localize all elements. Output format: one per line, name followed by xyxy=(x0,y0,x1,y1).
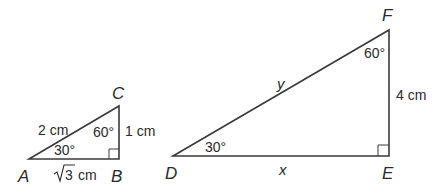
vertex-a-label: A xyxy=(17,167,29,186)
triangle-def: D E F y x 4 cm 30° 60° xyxy=(165,6,426,183)
similar-triangles-diagram: A B C 2 cm 1 cm 30° 60° 3 cm D E F y x 4… xyxy=(0,0,437,194)
vertex-f-label: F xyxy=(382,6,394,25)
side-bc-label: 1 cm xyxy=(125,123,155,139)
side-ac-label: 2 cm xyxy=(38,122,68,138)
vertex-c-label: C xyxy=(112,84,125,103)
side-ef-label: 4 cm xyxy=(396,87,426,103)
side-ab-radicand: 3 xyxy=(65,167,73,183)
triangle-def-shape xyxy=(173,30,389,156)
angle-d-label: 30° xyxy=(205,139,226,155)
vertex-b-label: B xyxy=(111,167,122,186)
side-ab-unit: cm xyxy=(74,167,97,183)
right-angle-marker-b xyxy=(109,149,119,159)
side-de-label: x xyxy=(278,161,287,178)
side-df-label: y xyxy=(276,75,286,92)
angle-f-label: 60° xyxy=(364,45,385,61)
vertex-d-label: D xyxy=(165,164,177,183)
triangle-abc: A B C 2 cm 1 cm 30° 60° 3 cm xyxy=(17,84,155,186)
side-ab-label: 3 cm xyxy=(54,165,97,183)
angle-a-label: 30° xyxy=(54,142,75,158)
vertex-e-label: E xyxy=(382,164,394,183)
right-angle-marker-e xyxy=(378,145,389,156)
angle-c-label: 60° xyxy=(93,124,114,140)
